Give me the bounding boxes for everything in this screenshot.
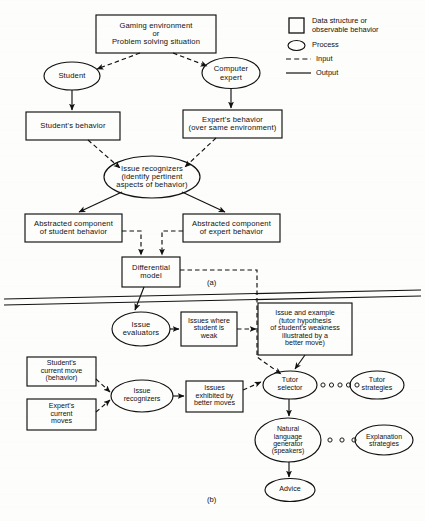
- differential-model-box: [122, 257, 180, 287]
- issue-recognizers-b-ellipse: [111, 380, 173, 412]
- issues-where-weak-box: [181, 312, 237, 346]
- edge-experts-current-moves-to-issue-recognizers-b: [96, 400, 110, 412]
- gaming-environment-box: [96, 15, 216, 53]
- diagram-svg: [0, 0, 425, 521]
- legend-rect-icon: [289, 18, 304, 33]
- abstracted-expert-box: [183, 214, 280, 242]
- edge-issue-and-example-to-tutor-selector: [295, 355, 305, 369]
- edge-experts-behavior-to-issue-recognizers: [185, 138, 216, 167]
- figure-canvas: Data structure or observable behavior Pr…: [0, 0, 425, 521]
- legend-ellipse-icon: [288, 41, 305, 51]
- explanation-strategies-link-dots: [328, 438, 356, 442]
- panel-a-label: (a): [207, 278, 216, 287]
- student-ellipse: [44, 62, 100, 90]
- legend-item-output-label: Output: [316, 69, 425, 78]
- experts-current-moves-box: [27, 399, 96, 430]
- edge-abstracted-expert-to-differential: [162, 231, 183, 255]
- legend-item-data-structure-label: Data structure or observable behavior: [312, 17, 422, 34]
- issues-exhibited-box: [186, 381, 243, 412]
- experts-behavior-box: [183, 110, 282, 138]
- edge-issue-recognizers-to-abstracted-student: [79, 192, 122, 212]
- edge-students-current-move-to-issue-recognizers-b: [96, 379, 110, 392]
- computer-expert-ellipse: [202, 58, 260, 89]
- students-behavior-box: [26, 112, 120, 140]
- panel-b-label: (b): [207, 495, 216, 504]
- students-current-move-box: [27, 357, 96, 386]
- abstracted-student-box: [25, 214, 122, 242]
- natural-language-generator-ellipse: [255, 418, 321, 462]
- edge-issue-recognizers-to-abstracted-expert: [182, 192, 225, 212]
- edge-gaming-to-student: [97, 53, 140, 69]
- edge-gaming-to-expert: [173, 53, 207, 66]
- tutor-selector-ellipse: [263, 371, 317, 399]
- tutor-strategies-ellipse: [350, 371, 404, 399]
- issue-recognizers-ellipse: [104, 156, 200, 198]
- advice-ellipse: [265, 479, 315, 502]
- tutor-strategies-link-dots: [321, 383, 359, 387]
- edge-differential-to-issue-evaluators: [135, 287, 144, 310]
- edge-abstracted-student-to-differential: [122, 231, 141, 255]
- edge-issues-exhibited-to-tutor-selector: [243, 382, 261, 390]
- legend-item-input-label: Input: [316, 55, 425, 64]
- issue-evaluators-ellipse: [112, 312, 170, 346]
- explanation-strategies-ellipse: [355, 425, 413, 455]
- issue-and-example-box: [258, 303, 352, 355]
- legend-item-process-label: Process: [312, 41, 422, 50]
- edge-differential-to-issue-and-example: [180, 270, 281, 374]
